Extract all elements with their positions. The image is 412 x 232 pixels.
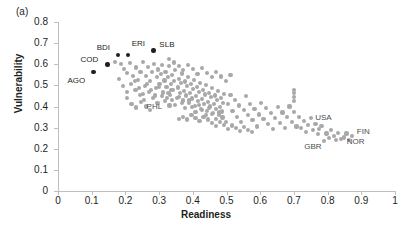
data-point <box>255 124 259 128</box>
y-tick-label: 0.2 <box>8 144 48 154</box>
point-label-bdi: BDI <box>97 44 110 52</box>
data-point <box>153 93 157 97</box>
point-label-usa: USA <box>315 114 331 122</box>
data-point <box>177 77 181 81</box>
data-point <box>237 103 241 107</box>
data-point <box>191 67 195 71</box>
data-point <box>332 134 336 138</box>
data-point <box>176 85 180 89</box>
data-point <box>164 85 168 89</box>
data-point <box>163 70 167 74</box>
point-label-ago: AGO <box>67 77 85 85</box>
data-point <box>206 100 210 104</box>
data-point <box>170 98 174 102</box>
data-point <box>198 81 202 85</box>
point-label-cod: COD <box>81 56 99 64</box>
data-point <box>152 62 156 66</box>
data-point <box>313 122 317 126</box>
data-point <box>121 84 125 88</box>
data-point <box>214 117 218 121</box>
data-point <box>228 93 232 97</box>
figure-panel: (a) 00.10.20.30.40.50.60.70.8 00.10.20.3… <box>0 0 412 232</box>
data-point <box>287 104 291 108</box>
data-point <box>238 129 242 133</box>
data-point <box>134 105 138 109</box>
panel-label: (a) <box>16 6 28 17</box>
data-point <box>233 98 237 102</box>
data-point <box>213 93 217 97</box>
y-tick-label: 0.1 <box>8 165 48 175</box>
data-point <box>134 65 138 69</box>
data-point <box>292 95 296 99</box>
data-point <box>125 90 129 94</box>
data-point <box>311 128 315 132</box>
data-point <box>186 63 190 67</box>
data-point <box>133 79 137 83</box>
data-point <box>180 71 184 75</box>
data-point <box>319 124 323 128</box>
data-point <box>271 127 275 131</box>
data-point <box>217 110 221 114</box>
data-point <box>186 75 190 79</box>
data-point <box>150 70 154 74</box>
point-label-nor: NOR <box>347 138 365 146</box>
data-point <box>131 74 135 78</box>
data-point <box>276 105 280 109</box>
data-point <box>235 115 239 119</box>
data-point <box>137 86 141 90</box>
data-point <box>219 74 223 78</box>
data-point <box>283 126 287 130</box>
data-point <box>119 62 123 66</box>
data-point <box>91 70 95 74</box>
data-point <box>125 71 129 75</box>
point-label-slb: SLB <box>159 41 174 49</box>
data-point <box>193 110 197 114</box>
data-point <box>309 116 313 120</box>
data-point <box>205 71 209 75</box>
y-tick-label: 0.8 <box>8 17 48 27</box>
data-point <box>187 98 191 102</box>
data-point <box>226 127 230 131</box>
data-point <box>195 72 199 76</box>
data-point <box>342 135 346 139</box>
data-point <box>228 73 232 77</box>
data-point <box>221 101 225 105</box>
data-point <box>162 78 166 82</box>
data-point <box>167 103 171 107</box>
data-point <box>138 70 142 74</box>
data-point <box>182 89 186 93</box>
data-point <box>214 124 218 128</box>
data-point <box>129 102 133 106</box>
data-point <box>197 103 201 107</box>
data-point <box>177 95 181 99</box>
data-point <box>297 115 301 119</box>
data-point <box>155 75 159 79</box>
data-point <box>344 131 348 135</box>
data-point <box>294 124 298 128</box>
data-point <box>210 75 214 79</box>
point-label-phl: PHL <box>147 103 163 111</box>
point-label-gbr: GBR <box>304 143 321 151</box>
data-point <box>230 109 234 113</box>
data-point <box>117 77 121 81</box>
data-point <box>222 123 226 127</box>
x-tick-label: 1 <box>375 196 412 206</box>
data-point <box>220 115 224 119</box>
data-point <box>161 91 165 95</box>
data-point <box>195 85 199 89</box>
data-point <box>116 53 120 57</box>
data-point <box>156 67 160 71</box>
data-point <box>252 107 256 111</box>
data-point <box>324 131 328 135</box>
data-point <box>250 118 254 122</box>
data-point <box>141 92 145 96</box>
data-point <box>141 60 145 64</box>
x-axis-title: Readiness <box>0 209 412 220</box>
data-point <box>105 62 109 66</box>
data-point <box>151 48 155 52</box>
data-point <box>184 93 188 97</box>
data-point <box>192 78 196 82</box>
data-point <box>290 120 294 124</box>
point-label-fin: FIN <box>357 128 370 136</box>
data-point <box>197 119 201 123</box>
